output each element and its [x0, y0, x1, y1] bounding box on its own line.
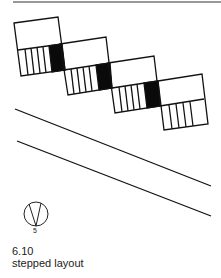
- house-block-4: [158, 74, 208, 130]
- stepped-layout-diagram: [0, 0, 221, 278]
- road-line-1: [15, 109, 211, 186]
- north-arrow-icon: [24, 202, 48, 226]
- house-block-2: [60, 37, 112, 95]
- house-block-3: [108, 56, 160, 113]
- house-block-1: [14, 17, 65, 76]
- figure-title: stepped layout: [12, 257, 84, 269]
- figure-number: 6.10: [12, 245, 84, 257]
- road-line-2: [17, 141, 211, 216]
- figure-caption: 6.10 stepped layout: [12, 245, 84, 269]
- compass-label: 5: [33, 227, 37, 234]
